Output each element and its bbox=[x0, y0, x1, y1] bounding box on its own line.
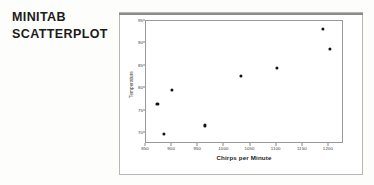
x-axis-title: Chirps per Minute bbox=[145, 154, 343, 161]
data-point bbox=[328, 47, 331, 50]
y-axis-tick-labels: 707580859095 bbox=[119, 20, 143, 143]
x-tick-label: 1000 bbox=[218, 146, 228, 151]
plot-area bbox=[145, 20, 343, 143]
data-point bbox=[275, 66, 278, 69]
x-tick-label: 950 bbox=[193, 146, 201, 151]
scatterplot-chart: Temperature 707580859095 850900950100010… bbox=[119, 12, 363, 175]
data-point bbox=[171, 88, 174, 91]
data-point bbox=[162, 132, 165, 135]
data-point bbox=[240, 74, 243, 77]
page-title-line-1: MINITAB bbox=[12, 9, 112, 26]
x-tick-label: 1200 bbox=[323, 146, 333, 151]
data-point bbox=[156, 102, 159, 105]
data-point bbox=[203, 124, 206, 127]
x-tick-label: 900 bbox=[167, 146, 175, 151]
x-tick-label: 1150 bbox=[297, 146, 307, 151]
data-point bbox=[321, 27, 324, 30]
x-tick-label: 1100 bbox=[271, 146, 281, 151]
x-tick-label: 850 bbox=[141, 146, 149, 151]
page-title-line-2: SCATTERPLOT bbox=[12, 26, 112, 43]
x-tick-label: 1050 bbox=[244, 146, 254, 151]
page-title: MINITAB SCATTERPLOT bbox=[12, 9, 112, 42]
